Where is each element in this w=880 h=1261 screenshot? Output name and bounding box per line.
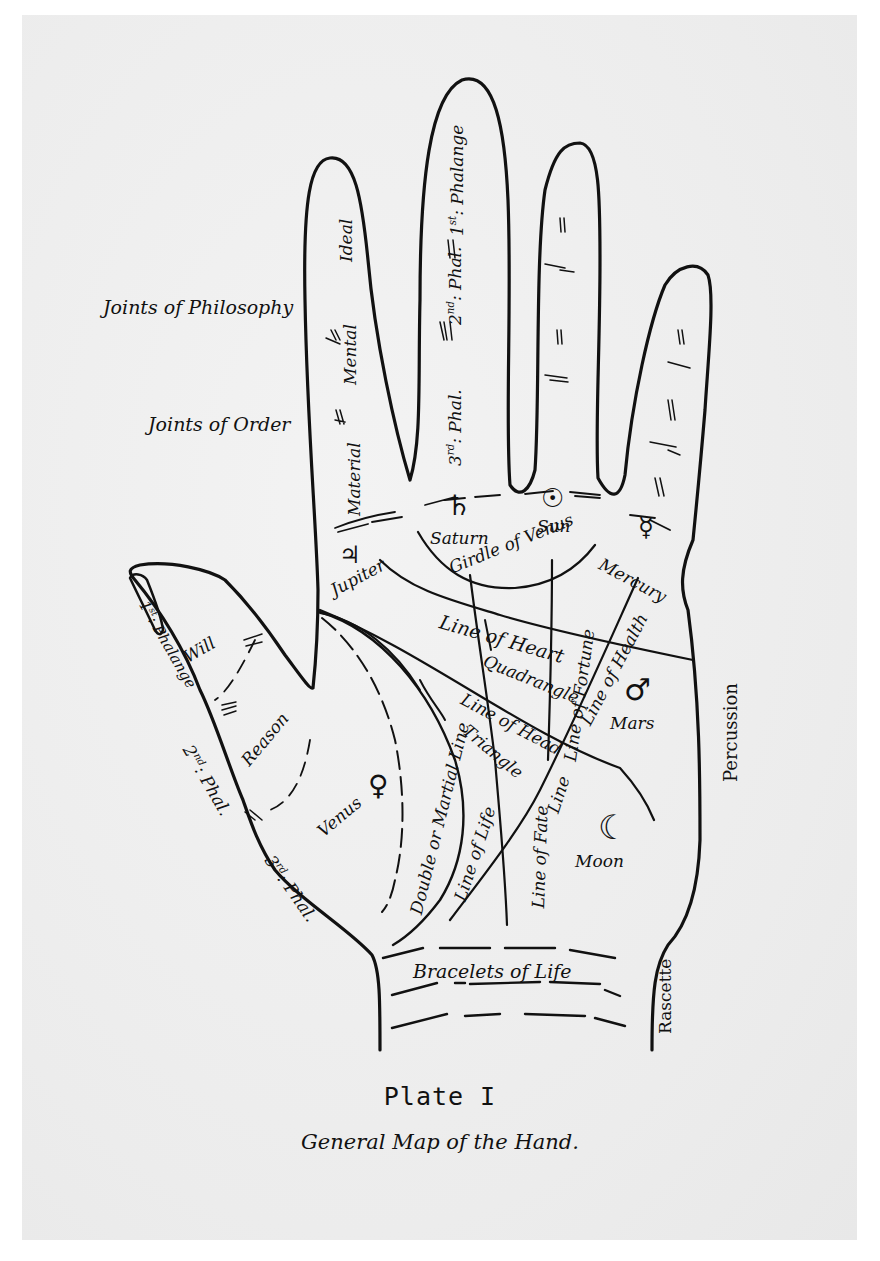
percussion-label: Percussion xyxy=(722,683,740,782)
fate-branch xyxy=(420,680,445,720)
jupiter-symbol-icon: ♃ xyxy=(339,543,361,567)
rascette-label: Rascette xyxy=(657,959,674,1034)
martial-line-path xyxy=(322,618,403,912)
saturn-symbol-icon: ♄ xyxy=(446,492,471,520)
bracelets-of-life-label: Bracelets of Life xyxy=(413,962,572,981)
base-creases xyxy=(335,491,670,532)
plate-caption: General Map of the Hand. xyxy=(0,1130,880,1154)
middle-2nd-phal-label: 2nd: Phal. xyxy=(446,247,464,325)
line-of-fate-label: Line of Fate xyxy=(530,805,551,908)
index-material-label: Material xyxy=(346,442,363,516)
mars-symbol-icon: ♂ xyxy=(624,675,651,705)
sun-symbol-icon: ☉ xyxy=(541,485,564,511)
mercury-symbol-icon: ☿ xyxy=(638,514,654,540)
joints-of-philosophy-label: Joints of Philosophy xyxy=(103,298,293,317)
mars-label: Mars xyxy=(610,715,654,732)
index-ideal-label: Ideal xyxy=(338,219,355,262)
middle-1st-phalange-label: 1st: Phalange xyxy=(448,125,466,236)
index-mental-label: Mental xyxy=(342,324,359,385)
middle-3rd-phal-label: 3rd: Phal. xyxy=(446,389,464,466)
moon-symbol-icon: ☽ xyxy=(598,810,628,844)
plate-title: Plate I xyxy=(0,1082,880,1111)
moon-label: Moon xyxy=(575,853,624,870)
venus-symbol-icon: ♀ xyxy=(368,772,389,800)
joints-of-order-label: Joints of Order xyxy=(148,415,290,434)
